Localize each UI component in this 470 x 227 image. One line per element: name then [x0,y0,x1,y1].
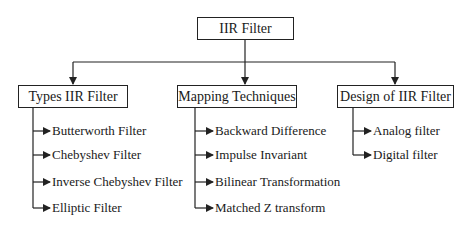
root-node: IIR Filter [197,17,294,40]
root-label: IIR Filter [219,21,272,37]
branch-node-types: Types IIR Filter [18,85,128,108]
branch-node-design: Design of IIR Filter [337,85,454,108]
leaf-item: Impulse Invariant [215,148,307,162]
branch-node-mapping: Mapping Techniques [177,85,297,108]
leaf-item: Matched Z transform [215,201,325,215]
branch-label: Types IIR Filter [28,89,117,105]
leaf-item: Bilinear Transformation [215,175,340,189]
branch-label: Mapping Techniques [178,89,295,105]
leaf-item: Analog filter [373,124,440,138]
leaf-item: Backward Difference [215,124,326,138]
leaf-item: Chebyshev Filter [52,148,141,162]
leaf-item: Digital filter [373,148,438,162]
branch-label: Design of IIR Filter [340,89,451,105]
leaf-item: Inverse Chebyshev Filter [52,175,183,189]
leaf-item: Elliptic Filter [52,201,122,215]
leaf-item: Butterworth Filter [52,124,146,138]
